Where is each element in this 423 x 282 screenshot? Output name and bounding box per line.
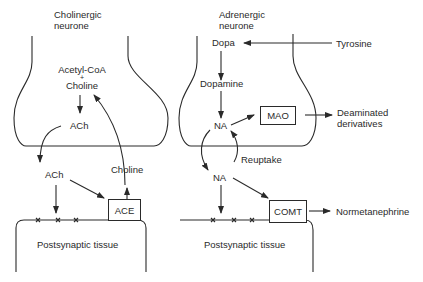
reuptake-label: Reuptake	[241, 154, 282, 165]
cholinergic-title-line1: Cholinergic	[54, 9, 102, 20]
deaminated-line1: Deaminated	[337, 107, 388, 118]
na-cleft-label: NA	[213, 172, 226, 183]
comt-enzyme-box: COMT	[269, 200, 307, 223]
deaminated-derivatives-label: Deaminated derivatives	[337, 107, 388, 129]
na-intracellular-label: NA	[214, 120, 227, 131]
choline-precursor-text: Choline	[56, 80, 108, 91]
adrenergic-title-line1: Adrenergic	[219, 9, 265, 20]
postsynaptic-tissue-right-label: Postsynaptic tissue	[204, 239, 285, 250]
ace-enzyme-box: ACE	[108, 199, 141, 221]
adrenergic-title-line2: neurone	[219, 20, 265, 31]
normetanephrine-label: Normetanephrine	[336, 206, 409, 217]
mao-enzyme-box: MAO	[260, 106, 296, 125]
ach-intracellular-label: ACh	[70, 120, 88, 131]
ach-cleft-label: ACh	[45, 169, 63, 180]
cholinergic-title-line2: neurone	[54, 20, 102, 31]
postsynaptic-tissue-left-label: Postsynaptic tissue	[37, 239, 118, 250]
adrenergic-title: Adrenergic neurone	[219, 9, 265, 31]
dopa-label: Dopa	[212, 37, 235, 48]
acetyl-coa-choline-label: Acetyl-CoA + Choline	[56, 64, 108, 91]
adrenergic-terminal-outline	[179, 34, 316, 146]
choline-return-label: Choline	[111, 164, 143, 175]
dopamine-label: Dopamine	[200, 78, 243, 89]
tyrosine-label: Tyrosine	[336, 38, 372, 49]
cholinergic-terminal-outline	[14, 36, 168, 146]
deaminated-line2: derivatives	[337, 118, 388, 129]
cholinergic-title: Cholinergic neurone	[54, 9, 102, 31]
